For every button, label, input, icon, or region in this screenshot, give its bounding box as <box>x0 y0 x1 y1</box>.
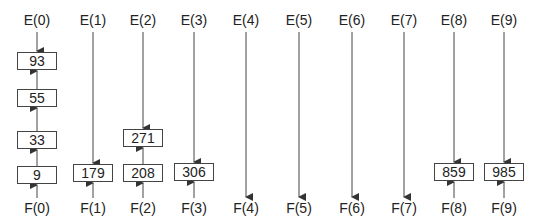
value-node: 271 <box>123 129 163 147</box>
value-node: 179 <box>73 164 113 182</box>
e-label: E(5) <box>274 12 324 28</box>
e-label: E(3) <box>169 12 219 28</box>
e-label: E(9) <box>479 12 529 28</box>
f-label: F(3) <box>169 200 219 216</box>
e-label: E(4) <box>221 12 271 28</box>
value-node: 306 <box>174 163 214 181</box>
f-label: F(8) <box>429 200 479 216</box>
f-label: F(2) <box>118 200 168 216</box>
f-label: F(1) <box>68 200 118 216</box>
value-node: 55 <box>17 89 57 107</box>
f-label: F(7) <box>379 200 429 216</box>
value-node: 859 <box>434 163 474 181</box>
e-label: E(7) <box>379 12 429 28</box>
f-label: F(0) <box>12 200 62 216</box>
e-label: E(0) <box>12 12 62 28</box>
value-node: 9 <box>17 166 57 184</box>
value-node: 208 <box>123 164 163 182</box>
e-label: E(2) <box>118 12 168 28</box>
e-label: E(8) <box>429 12 479 28</box>
f-label: F(4) <box>221 200 271 216</box>
f-label: F(5) <box>274 200 324 216</box>
e-label: E(1) <box>68 12 118 28</box>
f-label: F(9) <box>479 200 529 216</box>
value-node: 93 <box>17 52 57 70</box>
value-node: 33 <box>17 131 57 149</box>
value-node: 985 <box>484 163 524 181</box>
f-label: F(6) <box>327 200 377 216</box>
e-label: E(6) <box>327 12 377 28</box>
arrows-layer <box>0 0 536 224</box>
